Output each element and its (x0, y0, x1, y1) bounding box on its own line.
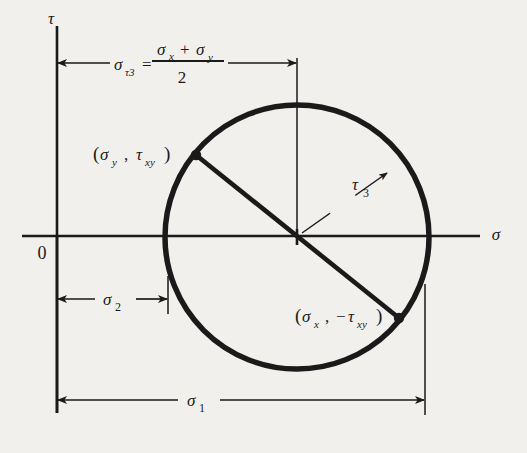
point-right-comma: , (325, 307, 329, 326)
center-dim-numerator-sigma-y-subscript: y (207, 51, 213, 63)
center-dim-sigma-subscript: τ3 (125, 66, 135, 78)
radius-label-subscript: 3 (363, 186, 369, 200)
sigma2-label: σ 2 (103, 290, 121, 314)
origin-label: 0 (38, 243, 47, 263)
point-left-close-paren: ) (164, 143, 170, 165)
center-dim-plus: + (180, 40, 190, 59)
point-right-open-paren: ( (295, 305, 301, 327)
point-right-close-paren: ) (376, 305, 382, 327)
data-point-sigma-x-minus-tau-xy[interactable] (394, 313, 404, 323)
point-right-label: ( σ x , − τ xy ) (295, 305, 382, 330)
tau-axis-label: τ (48, 9, 55, 28)
point-left-open-paren: ( (93, 143, 99, 165)
point-left-comma: , (124, 145, 128, 164)
sigma1-label-subscript: 1 (199, 401, 205, 415)
point-left-sigma-subscript: y (111, 156, 117, 168)
point-right-tau: τ (348, 307, 355, 326)
center-dim-numerator-sigma-x-subscript: x (168, 50, 174, 62)
data-point-sigma-y-tau-xy[interactable] (191, 150, 201, 160)
radius-label-base: τ (352, 175, 359, 194)
center-dimension-label: σ τ3 = σ x + σ y 2 (114, 40, 213, 87)
center-dim-sigma: σ (114, 55, 123, 74)
sigma-axis-label: σ (492, 225, 501, 244)
point-right-sigma: σ (302, 307, 311, 326)
center-dim-numerator-sigma-y: σ (196, 40, 205, 59)
point-left-tau-subscript: xy (144, 156, 155, 168)
point-right-sigma-subscript: x (313, 318, 319, 330)
sigma2-label-subscript: 2 (115, 300, 121, 314)
point-right-tau-subscript: xy (356, 318, 367, 330)
sigma2-label-base: σ (103, 290, 112, 309)
center-dim-denominator: 2 (178, 68, 187, 87)
point-right-minus-sign: − (336, 307, 346, 326)
center-dim-numerator-sigma-x: σ (157, 40, 166, 59)
sigma1-label: σ 1 (187, 391, 205, 415)
point-left-sigma: σ (100, 145, 109, 164)
mohrs-circle-canvas: τ σ 0 σ τ3 = σ x + σ y 2 τ 3 ( σ y , τ x… (0, 0, 527, 453)
point-left-tau: τ (136, 145, 143, 164)
center-dim-equals: = (142, 55, 152, 74)
radius-arrow-label-gap (330, 195, 355, 213)
sigma1-label-base: σ (187, 391, 196, 410)
point-left-label: ( σ y , τ xy ) (93, 143, 170, 168)
mohrs-circle-figure: τ σ 0 σ τ3 = σ x + σ y 2 τ 3 ( σ y , τ x… (0, 0, 527, 453)
